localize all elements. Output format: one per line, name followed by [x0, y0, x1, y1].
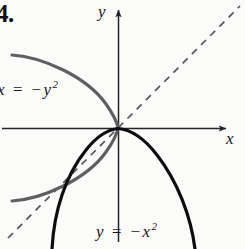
math-figure: 4. y x x = −y2 y = −x2 — [0, 0, 245, 249]
black-label-base: x — [143, 222, 152, 241]
black-curve-label: y = −x2 — [96, 221, 157, 240]
y-axis-label: y — [98, 3, 106, 20]
gray-curve-label: x = −y2 — [0, 79, 58, 98]
problem-number: 4. — [0, 1, 14, 26]
gray-label-equals: = — [12, 80, 25, 99]
gray-label-exponent: 2 — [53, 78, 59, 90]
black-label-sign: − — [130, 222, 143, 241]
black-label-exponent: 2 — [152, 220, 158, 232]
figure-canvas — [0, 0, 245, 249]
gray-label-base: y — [44, 80, 53, 99]
black-label-lhs: y — [96, 222, 105, 241]
dashed-line-y-equals-x — [8, 6, 240, 238]
gray-label-lhs: x — [0, 80, 6, 99]
gray-label-sign: − — [31, 80, 44, 99]
black-label-equals: = — [111, 222, 124, 241]
x-axis-label: x — [226, 130, 234, 147]
